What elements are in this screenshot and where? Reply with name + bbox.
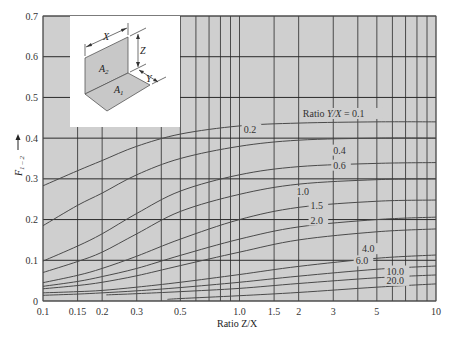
x-tick-label: 2 (296, 306, 301, 317)
x-tick-label: 5 (374, 306, 379, 317)
y-axis-arrow-icon (16, 134, 21, 150)
x-tick-label: 1.0 (233, 306, 246, 317)
y-tick-labels: 00.10.20.30.40.50.60.7 (26, 11, 39, 307)
curve-label: 0.6 (333, 160, 346, 171)
curve-label: 6.0 (356, 255, 369, 266)
curve-label: 0.4 (333, 145, 346, 156)
curve-label: Ratio Y/X = 0.1 (303, 108, 365, 119)
x-tick-label: 1.5 (268, 306, 281, 317)
curve-label: 4.0 (362, 243, 375, 254)
curve-label: 2.0 (311, 215, 324, 226)
y-tick-label: 0.5 (26, 92, 39, 103)
curve-label: 1.0 (296, 186, 309, 197)
y-tick-label: 0.4 (26, 133, 39, 144)
view-factor-chart: 00.10.20.30.40.50.60.7 0.10.150.20.30.51… (0, 0, 452, 340)
inset-x-label: X (102, 31, 110, 42)
x-tick-label: 0.1 (37, 306, 50, 317)
curve-label: 1.5 (311, 200, 324, 211)
x-tick-labels: 0.10.150.20.30.51.01.523510 (37, 306, 441, 317)
y-tick-label: 0.7 (26, 11, 39, 22)
y-tick-label: 0 (33, 296, 38, 307)
inset-z-label: Z (140, 45, 146, 56)
svg-text:F1 – 2: F1 – 2 (13, 155, 26, 177)
x-tick-label: 0.15 (69, 306, 87, 317)
x-axis-title: Ratio Z/X (217, 318, 258, 329)
curve-label: 20.0 (387, 275, 405, 286)
y-tick-label: 0.3 (26, 173, 39, 184)
x-tick-label: 0.5 (174, 306, 187, 317)
x-tick-label: 0.2 (96, 306, 109, 317)
y-tick-label: 0.6 (26, 51, 39, 62)
x-tick-label: 3 (331, 306, 336, 317)
curve-label: 0.2 (244, 124, 257, 135)
y-axis-title: F1 – 2 (13, 155, 26, 177)
inset-diagram: X Z Y A2 A1 (70, 16, 180, 127)
y-tick-label: 0.1 (26, 255, 39, 266)
y-tick-label: 0.2 (26, 214, 39, 225)
x-tick-label: 0.3 (131, 306, 144, 317)
x-tick-label: 10 (431, 306, 441, 317)
